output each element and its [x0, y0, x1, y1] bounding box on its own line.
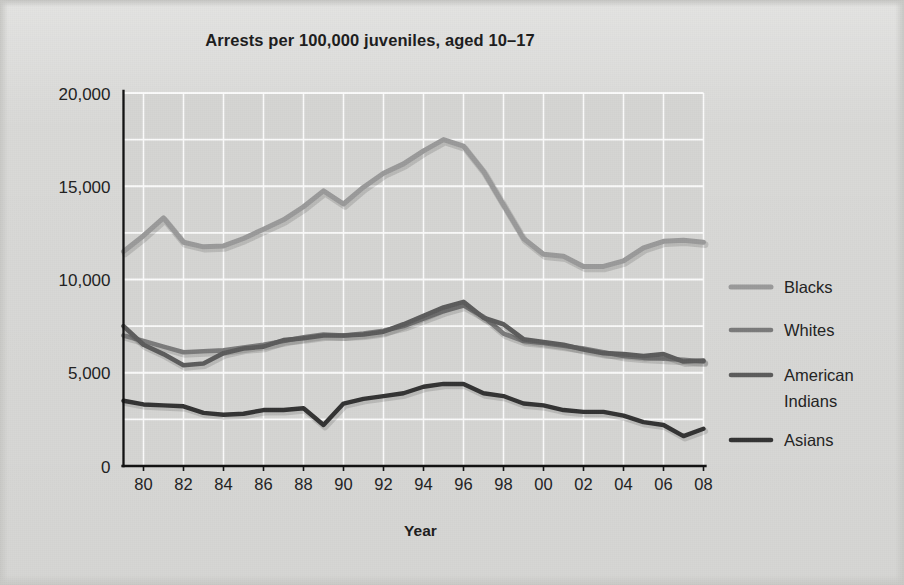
x-tick-label: 84 — [214, 475, 232, 493]
x-tick-label: 00 — [534, 475, 552, 493]
x-tick-label: 82 — [174, 475, 192, 493]
line-chart: 05,00010,00015,00020,000 808284868890929… — [0, 0, 904, 585]
legend-label-american-line2[interactable]: Indians — [784, 392, 837, 410]
x-tick-label: 04 — [614, 475, 632, 493]
legend-label-whites[interactable]: Whites — [784, 321, 834, 339]
y-tick-label: 20,000 — [59, 85, 111, 104]
chart-legend: BlacksWhitesAmericanIndiansAsians — [731, 278, 854, 449]
x-axis-title-text: Year — [404, 522, 437, 539]
x-axis-tick-labels: 808284868890929496980002040608 — [134, 475, 712, 493]
x-axis-title: Year — [404, 522, 437, 539]
y-tick-label: 15,000 — [59, 178, 111, 197]
x-tick-label: 92 — [374, 475, 392, 493]
x-tick-label: 06 — [654, 475, 672, 493]
x-tick-label: 90 — [334, 475, 352, 493]
x-tick-label: 02 — [574, 475, 592, 493]
y-axis-tick-labels: 05,00010,00015,00020,000 — [59, 85, 111, 477]
x-tick-label: 98 — [494, 475, 512, 493]
y-tick-label: 5,000 — [68, 364, 111, 383]
x-tick-label: 96 — [454, 475, 472, 493]
y-tick-label: 0 — [101, 458, 110, 477]
legend-label-american[interactable]: American — [784, 366, 854, 384]
x-tick-label: 94 — [414, 475, 432, 493]
y-tick-label: 10,000 — [59, 271, 111, 290]
x-tick-label: 88 — [294, 475, 312, 493]
figure-page: Arrests per 100,000 juveniles, aged 10–1… — [0, 0, 904, 585]
x-tick-label: 80 — [134, 475, 152, 493]
x-tick-label: 08 — [694, 475, 712, 493]
legend-label-asians[interactable]: Asians — [784, 431, 834, 449]
legend-label-blacks[interactable]: Blacks — [784, 278, 833, 296]
x-tick-label: 86 — [254, 475, 272, 493]
